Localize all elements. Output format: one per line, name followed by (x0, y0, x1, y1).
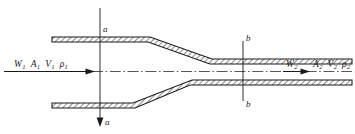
inlet-mass-flow-label: W1 (14, 60, 26, 70)
section-label-a-top: a (103, 25, 108, 34)
duct-flow-diagram: W1 A1 V1 ρ1 W2 A2 V2 ρ2 a a b b (0, 0, 355, 134)
outlet-density-label: ρ2 (342, 60, 350, 70)
outlet-mass-flow-group: W2 (286, 60, 298, 70)
inlet-density-label: ρ1 (60, 60, 68, 70)
inlet-area-label: A1 (31, 60, 41, 70)
section-label-b-top: b (246, 34, 251, 43)
outlet-label-group: A2 V2 ρ2 (313, 60, 350, 70)
section-label-b-bottom: b (246, 100, 251, 109)
inlet-velocity-label: V1 (45, 60, 55, 70)
upper-wall (52, 37, 352, 64)
lower-wall (52, 80, 352, 108)
outlet-velocity-label: V2 (328, 60, 338, 70)
inlet-label-group: W1 A1 V1 ρ1 (14, 60, 68, 70)
outlet-area-label: A2 (313, 60, 323, 70)
outlet-mass-flow-label: W2 (286, 60, 298, 70)
section-label-a-bottom: a (105, 118, 110, 127)
